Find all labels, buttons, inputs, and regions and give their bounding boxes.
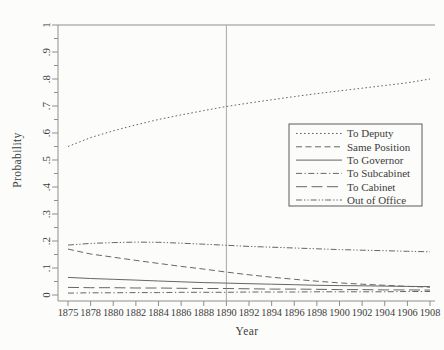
y-tick-label: .1 xyxy=(40,264,52,272)
x-axis-title: Year xyxy=(236,325,259,337)
y-tick-label: .7 xyxy=(40,101,52,110)
x-tick-label: 1892 xyxy=(239,307,260,318)
x-tick-label: 1894 xyxy=(261,307,282,318)
x-tick-label: 1875 xyxy=(58,307,79,318)
y-tick-label: 0 xyxy=(40,292,52,298)
series-line-to-governor xyxy=(68,277,430,286)
legend-label-to-cabinet: To Cabinet xyxy=(347,181,395,193)
x-tick-label: 1898 xyxy=(307,307,328,318)
x-tick-label: 1902 xyxy=(352,307,373,318)
x-tick-label: 1884 xyxy=(148,307,169,318)
y-tick-label: .2 xyxy=(40,237,52,245)
series-line-to-subcabinet xyxy=(68,292,430,294)
legend-label-out-of-office: Out of Office xyxy=(347,194,406,206)
x-tick-label: 1890 xyxy=(216,307,237,318)
x-tick-label: 1906 xyxy=(397,307,418,318)
x-tick-label: 1900 xyxy=(329,307,350,318)
x-tick-label: 1886 xyxy=(171,307,192,318)
series-line-same-position xyxy=(68,249,430,287)
line-chart: 0.1.2.3.4.5.6.7.8.9118751878188018821884… xyxy=(0,0,444,350)
y-tick-label: 1 xyxy=(40,22,52,28)
x-tick-label: 1880 xyxy=(103,307,124,318)
series-line-out-of-office xyxy=(68,242,430,252)
y-axis-title: Probability xyxy=(11,132,23,188)
chart-figure: 0.1.2.3.4.5.6.7.8.9118751878188018821884… xyxy=(0,0,444,350)
y-tick-label: .3 xyxy=(40,209,52,218)
x-tick-label: 1908 xyxy=(420,307,441,318)
series-line-to-cabinet xyxy=(68,287,430,290)
x-tick-label: 1888 xyxy=(193,307,214,318)
y-tick-label: .6 xyxy=(40,128,52,137)
legend-label-to-deputy: To Deputy xyxy=(347,127,394,139)
x-tick-label: 1896 xyxy=(284,307,305,318)
legend-label-to-subcabinet: To Subcabinet xyxy=(347,167,410,179)
y-tick-label: .8 xyxy=(40,74,52,83)
y-tick-label: .4 xyxy=(40,182,52,191)
y-tick-label: .9 xyxy=(40,47,52,56)
y-tick-label: .5 xyxy=(40,155,52,164)
x-tick-label: 1878 xyxy=(80,307,101,318)
legend-label-same-position: Same Position xyxy=(347,141,411,153)
x-tick-label: 1904 xyxy=(374,307,395,318)
legend-label-to-governor: To Governor xyxy=(347,154,404,166)
x-tick-label: 1882 xyxy=(126,307,147,318)
